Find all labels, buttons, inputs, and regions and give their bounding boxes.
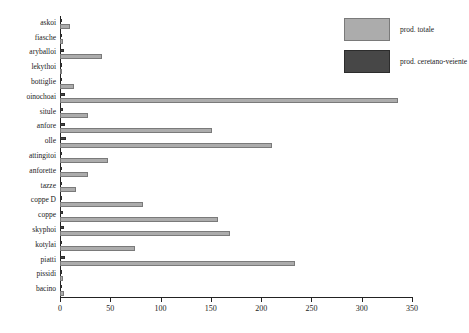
x-tick-label-50: 50 (95, 304, 125, 313)
bar-prod-totale (60, 172, 88, 177)
bar-prod-totale (60, 158, 108, 163)
y-axis-label-attingitoi: attingitoi (0, 152, 56, 160)
bar-prod-totale (60, 202, 143, 207)
bar-prod-totale (60, 231, 230, 236)
y-axis-label-anfore: anfore (0, 122, 56, 130)
bar-ceretano-veiente (60, 123, 65, 126)
x-tick-mark-300 (362, 297, 363, 302)
bar-prod-totale (60, 113, 88, 118)
x-tick-label-150: 150 (196, 304, 226, 313)
bar-prod-totale (60, 84, 74, 89)
bar-prod-totale (60, 261, 295, 266)
bar-ceretano-veiente (60, 63, 62, 66)
bar-ceretano-veiente (60, 211, 63, 214)
bar-ceretano-veiente (60, 152, 62, 155)
y-axis-label-anforette: anforette (0, 167, 56, 175)
bar-ceretano-veiente (60, 93, 65, 96)
x-tick-mark-200 (261, 297, 262, 302)
bar-ceretano-veiente (60, 78, 62, 81)
bar-chart: askoifiaschearyballoilekythoibottiglieoi… (0, 0, 469, 333)
bar-prod-totale (60, 54, 102, 59)
y-axis-label-oinochoai: oinochoai (0, 93, 56, 101)
x-tick-label-350: 350 (397, 304, 427, 313)
y-axis-label-kotylai: kotylai (0, 241, 56, 249)
bar-prod-totale (60, 24, 70, 29)
x-tick-label-300: 300 (347, 304, 377, 313)
bar-ceretano-veiente (60, 256, 65, 259)
bar-ceretano-veiente (60, 108, 63, 111)
bar-prod-totale (60, 128, 212, 133)
bar-prod-totale (60, 217, 218, 222)
legend-label: prod. ceretano-veiente (400, 57, 467, 66)
bar-ceretano-veiente (60, 19, 62, 22)
bar-prod-totale (60, 246, 135, 251)
bar-ceretano-veiente (60, 167, 62, 170)
x-tick-label-0: 0 (45, 304, 75, 313)
bar-ceretano-veiente (60, 34, 62, 37)
bar-ceretano-veiente (60, 270, 62, 273)
bar-prod-totale (60, 276, 63, 281)
y-axis-label-situle: situle (0, 108, 56, 116)
y-axis-label-aryballoi: aryballoi (0, 48, 56, 56)
x-tick-mark-0 (60, 297, 61, 302)
bar-ceretano-veiente (60, 241, 62, 244)
bar-prod-totale (60, 69, 62, 74)
x-tick-label-200: 200 (246, 304, 276, 313)
y-axis-label-bacino: bacino (0, 285, 56, 293)
y-axis-label-coppe-d: coppe D (0, 196, 56, 204)
y-axis-category-labels: askoifiaschearyballoilekythoibottiglieoi… (0, 16, 56, 297)
y-axis-label-askoi: askoi (0, 19, 56, 27)
y-axis-label-bottiglie: bottiglie (0, 78, 56, 86)
legend-swatch (344, 18, 390, 41)
bar-prod-totale (60, 98, 398, 103)
x-axis-line (60, 297, 413, 298)
x-tick-mark-50 (110, 297, 111, 302)
bar-ceretano-veiente (60, 226, 64, 229)
x-tick-label-100: 100 (146, 304, 176, 313)
legend-swatch (344, 50, 390, 73)
y-axis-label-coppe: coppe (0, 211, 56, 219)
x-tick-mark-350 (412, 297, 413, 302)
y-axis-label-skyphoi: skyphoi (0, 226, 56, 234)
bar-prod-totale (60, 291, 64, 296)
y-axis-label-olle: olle (0, 137, 56, 145)
x-tick-mark-100 (161, 297, 162, 302)
y-axis-label-tazze: tazze (0, 182, 56, 190)
bar-ceretano-veiente (60, 182, 62, 185)
y-axis-label-piatti: piatti (0, 256, 56, 264)
chart-legend: prod. totaleprod. ceretano-veiente (344, 18, 469, 78)
legend-label: prod. totale (400, 25, 434, 34)
bar-ceretano-veiente (60, 49, 64, 52)
bar-ceretano-veiente (60, 285, 62, 288)
x-tick-mark-150 (211, 297, 212, 302)
bar-ceretano-veiente (60, 196, 62, 199)
bar-prod-totale (60, 143, 272, 148)
y-axis-label-fiasche: fiasche (0, 34, 56, 42)
bar-prod-totale (60, 39, 63, 44)
x-tick-label-250: 250 (296, 304, 326, 313)
bar-prod-totale (60, 187, 76, 192)
bar-ceretano-veiente (60, 137, 66, 140)
y-axis-label-lekythoi: lekythoi (0, 63, 56, 71)
y-axis-label-pissidi: pissidi (0, 270, 56, 278)
x-tick-mark-250 (311, 297, 312, 302)
